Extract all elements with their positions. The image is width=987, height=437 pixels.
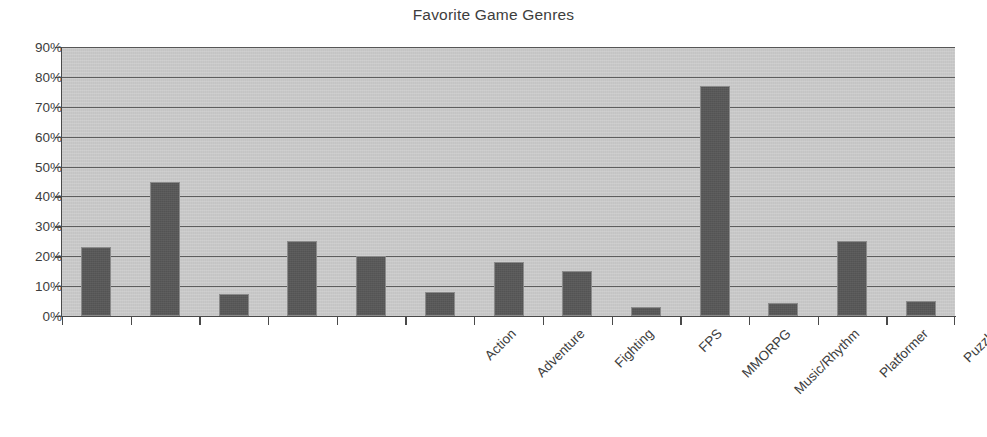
- y-axis-tick-mark: [55, 107, 62, 108]
- bar: [768, 303, 798, 316]
- x-axis-tick-mark: [612, 317, 613, 325]
- y-axis-tick-mark: [55, 256, 62, 257]
- y-axis-tick-mark: [55, 47, 62, 48]
- bar: [150, 182, 180, 317]
- bar-texture-overlay: [220, 295, 248, 315]
- bar-texture-overlay: [426, 293, 454, 315]
- bar: [631, 307, 661, 316]
- x-axis-tick-mark: [749, 317, 750, 325]
- x-axis-tick-mark: [405, 317, 406, 325]
- y-axis-tick-mark: [55, 137, 62, 138]
- bar: [219, 294, 249, 316]
- bar-texture-overlay: [701, 87, 729, 315]
- bar: [287, 241, 317, 316]
- x-axis-tick-mark: [474, 317, 475, 325]
- bar-texture-overlay: [495, 263, 523, 315]
- y-axis-tick-mark: [55, 226, 62, 227]
- x-axis-tick-mark: [199, 317, 200, 325]
- bar: [700, 86, 730, 316]
- bar: [837, 241, 867, 316]
- bar-texture-overlay: [769, 304, 797, 315]
- x-axis-tick-mark: [62, 317, 63, 325]
- x-axis-tick-mark: [818, 317, 819, 325]
- bar-texture-overlay: [151, 183, 179, 316]
- bar-texture-overlay: [288, 242, 316, 315]
- bar-texture-overlay: [357, 257, 385, 315]
- y-axis-tick-mark: [55, 77, 62, 78]
- x-axis-tick-mark: [268, 317, 269, 325]
- bars-group: [62, 47, 955, 316]
- y-axis-labels-group: 0%10%20%30%40%50%60%70%80%90%: [0, 0, 62, 437]
- y-axis-tick-mark: [55, 286, 62, 287]
- chart-container: Favorite Game Genres 0%10%20%30%40%50%60…: [0, 0, 987, 437]
- chart-title: Favorite Game Genres: [0, 6, 987, 24]
- x-axis-tick-mark: [543, 317, 544, 325]
- bar: [425, 292, 455, 316]
- bar: [81, 247, 111, 316]
- bar-texture-overlay: [838, 242, 866, 315]
- y-axis-tick-mark: [55, 196, 62, 197]
- bar-texture-overlay: [82, 248, 110, 315]
- x-axis-tick-mark: [954, 317, 955, 325]
- x-axis-tick-mark: [680, 317, 681, 325]
- bar: [494, 262, 524, 316]
- bar: [562, 271, 592, 316]
- x-axis-tick-label: Action: [226, 326, 519, 437]
- x-axis-labels-group: ActionAdventureFightingFPSMMORPGMusic/Rh…: [62, 326, 955, 436]
- x-axis-tick-mark: [337, 317, 338, 325]
- bar: [906, 301, 936, 316]
- bar-texture-overlay: [632, 308, 660, 315]
- bar: [356, 256, 386, 316]
- x-axis-tick-label: Adventure: [294, 326, 587, 437]
- y-axis-tick-mark: [55, 316, 62, 317]
- bar-texture-overlay: [563, 272, 591, 315]
- bar-texture-overlay: [907, 302, 935, 315]
- x-axis-tick-mark: [131, 317, 132, 325]
- x-axis-tick-mark: [886, 317, 887, 325]
- y-axis-tick-mark: [55, 167, 62, 168]
